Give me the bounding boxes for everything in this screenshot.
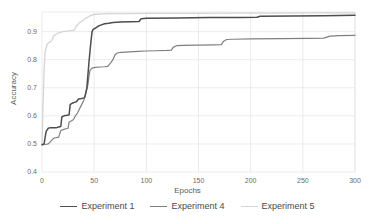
legend-line-swatch-icon bbox=[150, 206, 167, 207]
legend-item[interactable]: Experiment 1 bbox=[60, 201, 134, 211]
x-tick-label: 100 bbox=[131, 177, 161, 184]
y-axis-label: Accuracy bbox=[9, 59, 18, 119]
x-tick-label: 0 bbox=[27, 177, 57, 184]
legend-item[interactable]: Experiment 5 bbox=[241, 201, 315, 211]
x-tick-label: 150 bbox=[184, 177, 214, 184]
y-tick-label: 0.5 bbox=[11, 140, 37, 147]
legend-label: Experiment 5 bbox=[262, 201, 315, 211]
y-tick-label: 0.4 bbox=[11, 168, 37, 175]
x-tick-label: 50 bbox=[79, 177, 109, 184]
x-tick-label: 250 bbox=[288, 177, 318, 184]
y-tick-label: 0.9 bbox=[11, 28, 37, 35]
gridlines bbox=[42, 12, 355, 172]
chart-legend: Experiment 1Experiment 4Experiment 5 bbox=[0, 201, 375, 211]
legend-line-swatch-icon bbox=[241, 206, 258, 207]
legend-line-swatch-icon bbox=[60, 206, 77, 207]
legend-item[interactable]: Experiment 4 bbox=[150, 201, 224, 211]
x-tick-label: 200 bbox=[236, 177, 266, 184]
x-axis-label: Epochs bbox=[0, 186, 375, 195]
x-tick-label: 300 bbox=[340, 177, 370, 184]
legend-label: Experiment 4 bbox=[171, 201, 224, 211]
legend-label: Experiment 1 bbox=[81, 201, 134, 211]
accuracy-vs-epochs-chart: 0.40.50.60.70.80.9 050100150200250300 Ac… bbox=[0, 0, 375, 224]
